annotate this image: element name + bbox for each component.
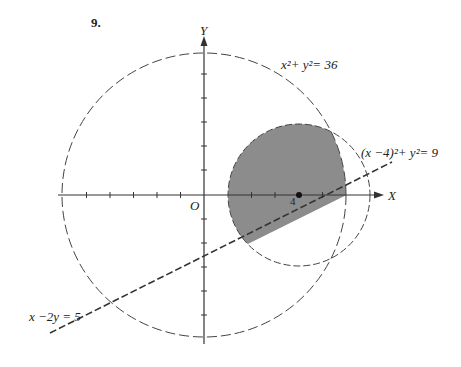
center-point xyxy=(296,192,302,198)
line-x-2y-5 xyxy=(50,162,392,333)
problem-number: 9. xyxy=(91,16,101,29)
x-axis-arrow-icon xyxy=(374,192,384,199)
x-tick-label-4: 4 xyxy=(290,196,296,207)
big-circle-label: x²+ y²= 36 xyxy=(281,58,337,71)
y-axis-label: Y xyxy=(200,24,207,37)
small-circle-label: (x −4)²+ y²= 9 xyxy=(361,146,438,159)
line-label: x −2y = 5 xyxy=(29,310,81,323)
origin-label: O xyxy=(190,199,199,212)
x-axis-label: X xyxy=(388,189,396,202)
